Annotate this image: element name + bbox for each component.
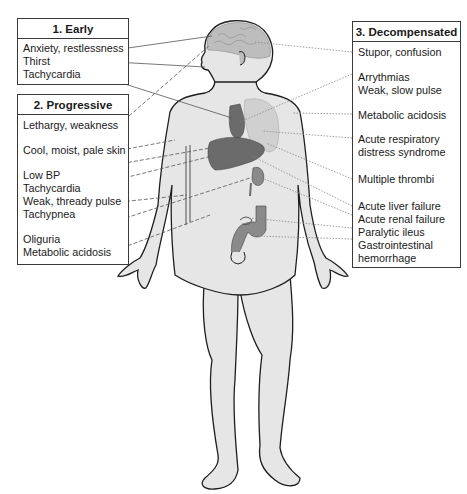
symptom-label: Paralytic ileus [358,226,425,239]
bladder-organ [231,252,245,264]
stage-progressive-title: 2. Progressive [18,95,128,115]
symptom-label: Multiple thrombi [358,173,434,186]
symptom-label: Thirst [23,55,50,68]
symptom-label: Tachypnea [23,208,75,221]
symptom-label: Tachycardia [23,182,81,195]
symptom-label: Oliguria [23,233,60,246]
stage-decompensated-title: 3. Decompensated [353,22,460,42]
symptom-label: Acute liver failure [358,200,441,213]
symptom-label: Gastrointestinal [358,239,433,252]
symptom-label: Acute renal failure [358,213,445,226]
stage-early-box: 1. Early Anxiety, restlessness Thirst Ta… [17,18,129,85]
symptom-label: Metabolic acidosis [23,246,111,259]
symptom-label: Anxiety, restlessness [23,42,124,55]
symptom-label: Metabolic acidosis [358,109,446,122]
symptom-label: hemorrhage [358,252,416,265]
symptom-label: distress syndrome [358,146,446,159]
stage-progressive-box: 2. Progressive Lethargy, weakness Cool, … [17,94,129,265]
symptom-label: Weak, thready pulse [23,195,121,208]
stage-decompensated-box: 3. Decompensated Stupor, confusion Arryt… [352,21,461,268]
kidney-organ [252,167,264,185]
symptom-label: Lethargy, weakness [23,119,118,132]
symptom-label: Cool, moist, pale skin [23,144,126,157]
stage-early-title: 1. Early [18,19,128,39]
symptom-label: Weak, slow pulse [358,84,442,97]
symptom-label: Acute respiratory [358,133,440,146]
symptom-label: Low BP [23,169,60,182]
symptom-label: Tachycardia [23,68,81,81]
symptom-label: Arrythmias [358,71,410,84]
symptom-label: Stupor, confusion [358,46,441,59]
